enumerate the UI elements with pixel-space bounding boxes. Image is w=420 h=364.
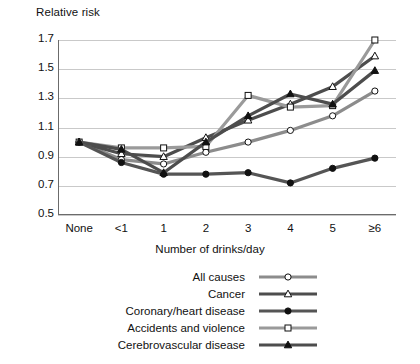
data-point: [245, 139, 251, 145]
y-tick-label: 0.9: [10, 149, 54, 161]
data-point: [372, 37, 378, 43]
y-tick-label: 1.5: [10, 61, 54, 73]
data-point: [245, 170, 251, 176]
data-point: [287, 104, 293, 110]
legend-marker: [257, 338, 319, 352]
x-tick-label: ≥6: [369, 222, 382, 234]
legend-label: Cerebrovascular disease: [0, 339, 257, 351]
series-line: [79, 40, 375, 148]
y-axis-title: Relative risk: [36, 6, 100, 18]
data-point: [287, 127, 293, 133]
data-point: [330, 165, 336, 171]
data-point: [371, 67, 378, 74]
legend-item[interactable]: Cerebrovascular disease: [0, 336, 420, 353]
series-accidents-and-violence: [76, 37, 378, 151]
x-tick-label: None: [65, 222, 93, 234]
legend-marker: [257, 287, 319, 301]
gridline: [58, 215, 396, 216]
series-layer: [58, 40, 396, 215]
chart-legend: All causesCancerCoronary/heart diseaseAc…: [0, 268, 420, 353]
x-axis-title: Number of drinks/day: [0, 243, 420, 255]
legend-label: Coronary/heart disease: [0, 305, 257, 317]
legend-marker: [257, 304, 319, 318]
data-point: [118, 159, 124, 165]
y-tick-label: 0.5: [10, 207, 54, 219]
data-point: [330, 113, 336, 119]
x-axis-tick-labels: None<112345≥6: [58, 222, 396, 240]
data-point: [287, 180, 293, 186]
legend-item[interactable]: All causes: [0, 268, 420, 285]
data-point: [203, 149, 209, 155]
x-tick-label: <1: [115, 222, 128, 234]
y-tick-label: 1.3: [10, 90, 54, 102]
data-point: [161, 145, 167, 151]
legend-item[interactable]: Cancer: [0, 285, 420, 302]
data-point: [203, 171, 209, 177]
x-tick-label: 3: [245, 222, 251, 234]
legend-label: Accidents and violence: [0, 322, 257, 334]
data-point: [245, 92, 251, 98]
y-tick-label: 0.7: [10, 178, 54, 190]
legend-item[interactable]: Coronary/heart disease: [0, 302, 420, 319]
x-tick-label: 1: [160, 222, 166, 234]
y-axis-tick-labels: 0.50.70.91.11.31.51.7: [8, 40, 54, 215]
data-point: [372, 155, 378, 161]
legend-label: Cancer: [0, 288, 257, 300]
legend-label: All causes: [0, 271, 257, 283]
legend-marker: [257, 270, 319, 284]
x-tick-label: 4: [287, 222, 293, 234]
legend-marker: [257, 321, 319, 335]
data-point: [161, 161, 167, 167]
legend-item[interactable]: Accidents and violence: [0, 319, 420, 336]
data-point: [371, 52, 378, 59]
relative-risk-chart: Relative risk 0.50.70.91.11.31.51.7 None…: [0, 0, 420, 364]
x-tick-label: 2: [203, 222, 209, 234]
x-tick-label: 5: [329, 222, 335, 234]
y-tick-label: 1.7: [10, 32, 54, 44]
y-tick-label: 1.1: [10, 120, 54, 132]
data-point: [372, 88, 378, 94]
